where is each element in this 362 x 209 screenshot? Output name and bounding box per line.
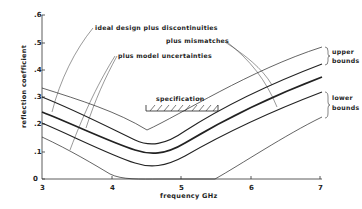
x-axis-title: frequency GHz	[160, 192, 218, 200]
upper-outer-curve	[42, 47, 322, 130]
x-tick-3: 3	[40, 184, 45, 192]
x-tick-4: 4	[110, 184, 115, 192]
leader-lines	[52, 28, 277, 150]
y-tick-4: .4	[34, 66, 42, 74]
curves	[42, 47, 322, 179]
lower-bounds-label-2: bounds	[332, 104, 359, 111]
annotation-mismatches: plus mismatches	[166, 37, 229, 45]
y-tick-0: 0	[33, 175, 38, 183]
y-tick-3: .3	[34, 93, 42, 101]
specification-marker	[146, 105, 218, 111]
brackets	[325, 47, 330, 118]
leader-model-uncertainties-1	[70, 56, 115, 150]
annotation-ideal-design: ideal design plus discontinuities	[95, 24, 218, 32]
leader-model-uncertainties-2	[86, 56, 117, 128]
y-axis-title: reflection coefficient	[20, 45, 28, 128]
leader-ideal-design	[52, 28, 93, 112]
y-tick-6: .6	[34, 11, 42, 19]
upper-inner-curve	[42, 64, 322, 144]
lower-bounds-label-1: lower	[332, 94, 353, 101]
y-tick-5: .5	[34, 39, 42, 47]
leader-mismatches-2	[227, 42, 277, 107]
upper-bounds-label-1: upper	[332, 48, 355, 56]
x-tick-6: 6	[249, 184, 254, 192]
lower-bounds-bracket	[325, 92, 330, 118]
leader-mismatches-1	[225, 42, 272, 85]
x-tick-5: 5	[179, 184, 184, 192]
y-tick-1: .1	[34, 148, 42, 156]
lower-outer-curve	[42, 117, 322, 179]
upper-bounds-bracket	[325, 47, 330, 65]
y-tick-labels: 0 .1 .2 .3 .4 .5 .6	[33, 11, 42, 183]
annotation-model-uncertainties: plus model uncertainties	[118, 52, 212, 60]
specification-label: specification	[156, 95, 204, 103]
x-tick-labels: 3 4 5 6 7	[40, 184, 323, 192]
reflection-coefficient-chart: 0 .1 .2 .3 .4 .5 .6 3 4 5 6 7 frequency …	[0, 0, 362, 209]
x-tick-7: 7	[318, 184, 323, 192]
y-tick-2: .2	[34, 120, 42, 128]
upper-bounds-label-2: bounds	[332, 57, 359, 64]
